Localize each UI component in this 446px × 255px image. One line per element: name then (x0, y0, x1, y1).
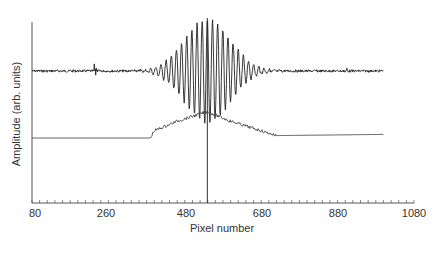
x-tick-label: 1080 (402, 207, 426, 219)
x-tick-label: 480 (177, 207, 195, 219)
y-axis-label: Amplitude (arb. units) (10, 62, 22, 167)
x-axis-label: Pixel number (190, 222, 254, 234)
x-tick-label: 680 (253, 207, 271, 219)
x-tick-label: 80 (29, 207, 41, 219)
chart-canvas (0, 0, 446, 255)
x-tick-label: 260 (97, 207, 115, 219)
x-tick-label: 880 (329, 207, 347, 219)
